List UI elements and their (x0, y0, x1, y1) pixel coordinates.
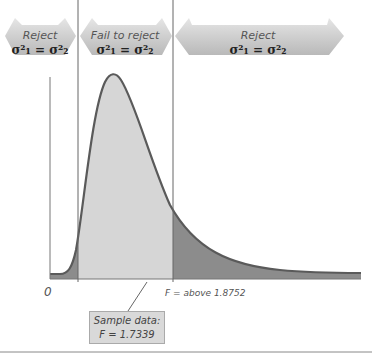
fail-to-reject-label: Fail to reject (91, 29, 160, 42)
f-distribution-chart: Reject σ²₁ = σ²₂ Fail to reject σ²₁ = σ²… (0, 0, 372, 359)
right-reject-equation: σ²₁ = σ²₂ (229, 43, 286, 57)
left-reject-label: Reject (23, 29, 58, 42)
left-reject-equation: σ²₁ = σ²₂ (11, 43, 68, 57)
sample-pointer (128, 282, 147, 311)
fail-to-reject-equation: σ²₁ = σ²₂ (96, 43, 153, 57)
sample-data-label: Sample data: (90, 314, 164, 328)
sample-data-value: F = 1.7339 (90, 328, 164, 342)
right-reject-label: Reject (241, 29, 276, 42)
distribution-area (50, 74, 361, 279)
critical-value-label: F = above 1.8752 (165, 288, 246, 298)
sample-data-box: Sample data: F = 1.7339 (89, 311, 165, 344)
origin-label: 0 (44, 285, 52, 299)
